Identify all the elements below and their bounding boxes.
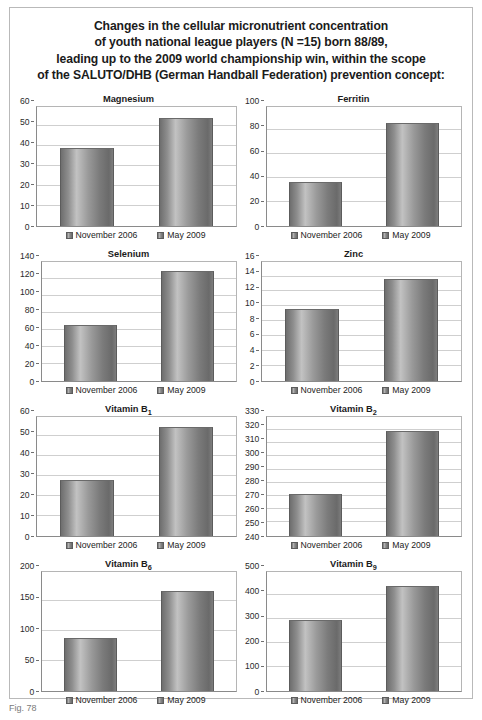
chart-title-text: Vitamin B	[330, 404, 373, 414]
chart-body: 330320310300290280270260250240	[245, 416, 462, 537]
bars-layer	[267, 572, 461, 691]
plot-area-vitamin-b6	[41, 571, 237, 692]
chart-title-vitamin-b2: Vitamin B2	[245, 402, 462, 416]
legend-item: November 2006	[291, 385, 363, 395]
bar-swatch-icon	[66, 232, 73, 239]
legend-label: November 2006	[76, 230, 138, 240]
legend-item: May 2009	[382, 695, 430, 705]
legend-label: November 2006	[76, 695, 138, 705]
legend-item: May 2009	[157, 230, 205, 240]
legend-item: May 2009	[382, 385, 430, 395]
chart-body: 100806040200	[245, 106, 462, 227]
bar-vitamin-b2-november-2006	[289, 494, 341, 536]
figure-root: Changes in the cellular micronutrient co…	[0, 0, 482, 720]
legend-item: November 2006	[291, 230, 363, 240]
legend-item: November 2006	[66, 230, 138, 240]
chart-title-text: Zinc	[344, 249, 363, 259]
chart-ferritin: Ferritin100806040200November 2006May 200…	[245, 89, 462, 244]
plot-area-vitamin-b2	[266, 416, 462, 537]
legend-item: November 2006	[66, 540, 138, 550]
legend-label: November 2006	[301, 540, 363, 550]
bar-zinc-november-2006	[285, 309, 339, 380]
legend-label: November 2006	[301, 695, 363, 705]
legend-vitamin-b6: November 2006May 2009	[20, 692, 237, 709]
bars-layer	[267, 417, 461, 536]
legend-label: November 2006	[301, 230, 363, 240]
bar-vitamin-b2-may-2009	[386, 431, 438, 536]
legend-vitamin-b2: November 2006May 2009	[245, 537, 462, 554]
chart-body: 6050403020100	[20, 416, 237, 537]
bar-vitamin-b1-may-2009	[159, 427, 213, 536]
chart-title-vitamin-b1: Vitamin B1	[20, 402, 237, 416]
bar-swatch-icon	[382, 232, 389, 239]
legend-label: November 2006	[76, 385, 138, 395]
chart-title-selenium: Selenium	[20, 247, 237, 261]
chart-vitamin-b9: Vitamin B95004003002001000November 2006M…	[245, 554, 462, 709]
legend-zinc: November 2006May 2009	[245, 382, 462, 399]
bars-layer	[42, 262, 236, 381]
figure-panel: Changes in the cellular micronutrient co…	[9, 7, 473, 699]
y-axis-vitamin-b1: 6050403020100	[20, 411, 36, 537]
bar-swatch-icon	[382, 697, 389, 704]
chart-title-vitamin-b6: Vitamin B6	[20, 557, 237, 571]
legend-magnesium: November 2006May 2009	[20, 227, 237, 244]
bar-swatch-icon	[291, 232, 298, 239]
bar-swatch-icon	[157, 387, 164, 394]
chart-vitamin-b2: Vitamin B2330320310300290280270260250240…	[245, 399, 462, 554]
chart-title-text: Vitamin B	[105, 559, 148, 569]
figure-title-line-2: of youth national league players (N =15)…	[22, 34, 460, 50]
figure-title-line-4: of the SALUTO/DHB (German Handball Feder…	[22, 67, 460, 83]
chart-title-ferritin: Ferritin	[245, 92, 462, 106]
bar-swatch-icon	[157, 697, 164, 704]
legend-label: May 2009	[392, 230, 430, 240]
y-axis-zinc: 1614121086420	[245, 256, 261, 382]
chart-title-magnesium: Magnesium	[20, 92, 237, 106]
bar-ferritin-may-2009	[386, 123, 438, 225]
bar-magnesium-november-2006	[60, 148, 114, 225]
figure-title-line-3: leading up to the 2009 world championshi…	[22, 51, 460, 67]
legend-item: May 2009	[157, 540, 205, 550]
bar-vitamin-b6-may-2009	[161, 591, 213, 690]
chart-zinc: Zinc1614121086420November 2006May 2009	[245, 244, 462, 399]
chart-vitamin-b6: Vitamin B6200150100500November 2006May 2…	[20, 554, 237, 709]
bar-selenium-may-2009	[161, 271, 213, 381]
legend-label: May 2009	[392, 695, 430, 705]
chart-body: 200150100500	[20, 571, 237, 692]
legend-ferritin: November 2006May 2009	[245, 227, 462, 244]
legend-item: May 2009	[157, 695, 205, 705]
legend-item: May 2009	[382, 540, 430, 550]
chart-title-vitamin-b9: Vitamin B9	[245, 557, 462, 571]
bar-swatch-icon	[382, 542, 389, 549]
bars-layer	[37, 107, 236, 226]
chart-vitamin-b1: Vitamin B16050403020100November 2006May …	[20, 399, 237, 554]
bars-layer	[262, 262, 461, 381]
bar-magnesium-may-2009	[159, 118, 213, 226]
legend-label: May 2009	[392, 540, 430, 550]
bars-layer	[37, 417, 236, 536]
y-axis-vitamin-b2: 330320310300290280270260250240	[245, 411, 266, 537]
y-axis-vitamin-b6: 200150100500	[20, 566, 41, 692]
legend-item: November 2006	[291, 695, 363, 705]
chart-body: 6050403020100	[20, 106, 237, 227]
chart-title-zinc: Zinc	[245, 247, 462, 261]
plot-area-zinc	[261, 261, 462, 382]
plot-area-ferritin	[266, 106, 462, 227]
y-axis-selenium: 140120100806040200	[20, 256, 41, 382]
plot-area-magnesium	[36, 106, 237, 227]
figure-title: Changes in the cellular micronutrient co…	[20, 17, 462, 88]
legend-label: May 2009	[392, 385, 430, 395]
plot-area-vitamin-b9	[266, 571, 462, 692]
y-axis-vitamin-b9: 5004003002001000	[245, 566, 266, 692]
bar-selenium-november-2006	[64, 325, 116, 381]
bar-vitamin-b9-may-2009	[386, 586, 438, 690]
legend-item: May 2009	[157, 385, 205, 395]
legend-item: November 2006	[66, 695, 138, 705]
bar-ferritin-november-2006	[289, 182, 341, 226]
charts-grid: Magnesium6050403020100November 2006May 2…	[20, 89, 462, 709]
chart-body: 1614121086420	[245, 261, 462, 382]
bars-layer	[42, 572, 236, 691]
figure-title-line-1: Changes in the cellular micronutrient co…	[22, 18, 460, 34]
bar-swatch-icon	[291, 542, 298, 549]
chart-title-text: Selenium	[108, 249, 149, 259]
legend-label: November 2006	[301, 385, 363, 395]
